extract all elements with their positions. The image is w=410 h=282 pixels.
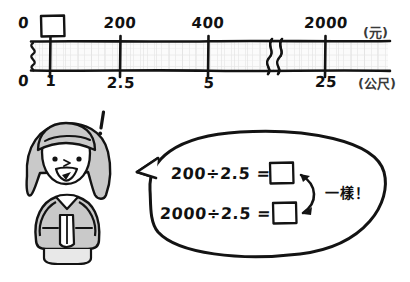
bottom-unit-label: (公尺) — [358, 73, 396, 92]
top-origin-label: 0 — [17, 14, 29, 32]
bottom-origin-label: 0 — [17, 72, 29, 90]
axis-break-zigzag — [267, 39, 282, 74]
top-unit-label: (元) — [363, 22, 388, 41]
tick-top-label-200: 200 — [103, 14, 137, 32]
equation-1: 200÷2.5 = — [170, 164, 271, 183]
artwork-svg — [0, 0, 410, 282]
girl-character — [27, 112, 111, 264]
tick-bottom-label-2-5: 2.5 — [106, 74, 135, 92]
tick-bottom-label-25: 25 — [314, 73, 337, 91]
illustration-canvas: 0 200 400 2000 (元) 0 1 2.5 5 25 (公尺) 200… — [0, 0, 410, 282]
tick-top-label-400: 400 — [191, 14, 225, 32]
equation-2: 2000÷2.5 = — [159, 204, 272, 223]
exclamation-mark — [98, 112, 103, 135]
tick-bottom-label-5: 5 — [203, 74, 215, 92]
tick-bottom-label-1: 1 — [45, 72, 57, 90]
answer-box-row-2 — [273, 203, 297, 224]
tick-top-label-2000: 2000 — [303, 14, 348, 32]
eye-right — [76, 156, 81, 161]
number-line-bar — [31, 41, 390, 71]
same-annotation: 一樣！ — [325, 182, 370, 202]
answer-box-row-1 — [270, 163, 294, 184]
unknown-box-on-line — [41, 16, 65, 37]
eye-left — [52, 156, 57, 161]
